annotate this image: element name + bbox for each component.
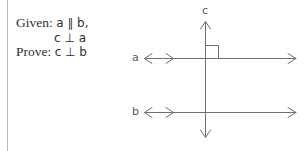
given-line-2: c ⊥ a xyxy=(16,31,126,46)
prove-label: Prove: xyxy=(16,44,51,59)
line-label-b: b xyxy=(132,105,139,118)
right-angle-marker xyxy=(206,46,219,59)
prove-line: Prove: c ⊥ b xyxy=(16,45,126,60)
horizontal-line-b xyxy=(145,108,297,118)
left-margin-rule xyxy=(7,0,8,151)
given-label: Given: xyxy=(16,15,53,30)
geometry-diagram: a b c xyxy=(126,0,305,151)
prove-expression: c ⊥ b xyxy=(55,45,87,59)
vertical-line-c xyxy=(201,22,211,138)
given-expression-1: a ∥ b, xyxy=(56,16,88,30)
line-label-a: a xyxy=(132,51,139,64)
given-expression-2: c ⊥ a xyxy=(54,31,86,45)
line-label-c: c xyxy=(202,4,208,17)
diagram-canvas xyxy=(126,0,305,151)
horizontal-line-a xyxy=(145,54,297,64)
proof-figure-page: Given: a ∥ b, c ⊥ a Prove: c ⊥ b xyxy=(0,0,305,151)
given-prove-statement: Given: a ∥ b, c ⊥ a Prove: c ⊥ b xyxy=(16,16,126,60)
given-line-1: Given: a ∥ b, xyxy=(16,16,126,31)
